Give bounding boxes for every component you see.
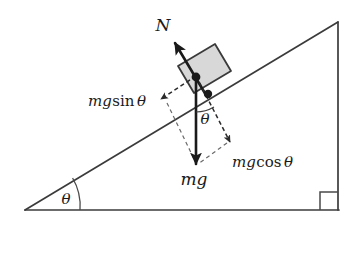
weight-label-text: mg xyxy=(180,169,207,189)
weight-label: mg xyxy=(180,169,207,189)
normal-force-label: N xyxy=(155,15,172,35)
weight-perpendicular-label-mg: mg xyxy=(232,153,256,171)
vector-angle-label: θ xyxy=(200,110,209,128)
block-center-dot xyxy=(192,73,201,82)
weight-perpendicular-label-fn: cos xyxy=(256,153,281,171)
diagram-canvas: N mg mgsinθ mgcosθ θ θ xyxy=(0,0,361,254)
block-body xyxy=(178,44,231,93)
weight-parallel-label-fn: sin xyxy=(112,92,134,110)
dashed-line-parallel-to-weight xyxy=(167,103,196,163)
incline-force-diagram: N mg mgsinθ mgcosθ θ θ xyxy=(0,0,361,254)
weight-perpendicular-label-theta: θ xyxy=(284,153,293,171)
block-contact-dot xyxy=(204,90,212,98)
dashed-line-perp-to-weight xyxy=(198,143,227,164)
weight-parallel-label: mgsinθ xyxy=(88,92,146,110)
block xyxy=(178,44,231,93)
incline-angle-label: θ xyxy=(61,190,70,208)
weight-parallel-label-theta: θ xyxy=(137,92,146,110)
weight-perpendicular-component-vector xyxy=(196,76,230,142)
weight-parallel-label-mg: mg xyxy=(88,92,112,110)
weight-perpendicular-label: mgcosθ xyxy=(232,153,293,171)
right-angle-marker xyxy=(320,192,338,210)
incline-angle-arc xyxy=(73,178,81,210)
